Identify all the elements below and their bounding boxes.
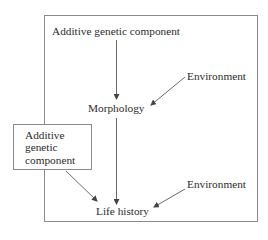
arrow-boxed-genetic-to-lifehistory <box>66 171 97 201</box>
boxed-label-line-3: component <box>25 154 75 166</box>
node-boxed-additive-genetic-component: Additive genetic component <box>25 129 75 166</box>
node-life-history: Life history <box>96 205 149 217</box>
node-environment-bottom: Environment <box>187 178 246 190</box>
boxed-label-line-1: Additive <box>25 129 75 141</box>
node-morphology: Morphology <box>88 102 145 114</box>
boxed-label-line-2: genetic <box>25 141 75 153</box>
arrow-environment-to-morphology <box>151 77 185 105</box>
arrow-environment-to-lifehistory <box>154 189 185 207</box>
node-additive-genetic-component: Additive genetic component <box>52 25 180 37</box>
node-environment-top: Environment <box>187 70 246 82</box>
